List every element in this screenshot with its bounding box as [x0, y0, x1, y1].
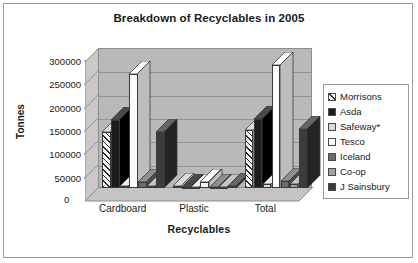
legend-item[interactable]: Co-op — [328, 164, 405, 179]
legend-swatch — [328, 93, 336, 101]
bar-front-face — [263, 184, 272, 188]
bar-front-face — [228, 186, 237, 188]
legend-item-label: Iceland — [340, 151, 371, 162]
bar — [173, 186, 182, 188]
legend-item[interactable]: Iceland — [328, 149, 405, 164]
bar-side-face — [307, 116, 321, 189]
bar — [219, 187, 228, 189]
legend-swatch — [328, 153, 336, 161]
bar — [290, 184, 299, 188]
legend-item[interactable]: Safeway* — [328, 119, 405, 134]
bar-front-face — [147, 186, 156, 188]
y-axis-tick-label: 300000 — [49, 56, 81, 67]
bar — [129, 74, 138, 188]
bar-front-face — [173, 186, 182, 188]
x-axis-tick-label: Plastic — [179, 203, 208, 214]
legend-swatch — [328, 138, 336, 146]
bar-front-face — [245, 130, 254, 188]
bar — [281, 181, 290, 188]
bar — [111, 120, 120, 188]
bar — [228, 186, 237, 188]
legend-swatch — [328, 183, 336, 191]
bar-front-face — [272, 65, 281, 188]
bar-front-face — [254, 119, 263, 188]
bar — [191, 187, 200, 189]
y-axis-tick-label: 200000 — [49, 102, 81, 113]
legend-swatch — [328, 168, 336, 176]
x-axis-tick-label: Cardboard — [99, 203, 146, 214]
bar — [138, 182, 147, 188]
legend-item-label: J Sainsbury — [340, 181, 390, 192]
bar — [102, 132, 111, 188]
chart-legend: MorrisonsAsdaSafeway*TescoIcelandCo-opJ … — [323, 84, 409, 199]
bar-front-face — [210, 187, 219, 189]
bar — [182, 187, 191, 189]
bars-layer — [85, 48, 325, 203]
y-axis-title: Tonnes — [15, 82, 26, 162]
legend-item-label: Co-op — [340, 166, 366, 177]
legend-swatch — [328, 123, 336, 131]
bar-front-face — [182, 187, 191, 189]
bar-front-face — [111, 120, 120, 188]
y-axis-tick-label: 150000 — [49, 126, 81, 137]
bar — [120, 186, 129, 188]
legend-item-label: Safeway* — [340, 121, 380, 132]
bar — [156, 132, 165, 188]
bar-front-face — [129, 74, 138, 188]
bar-front-face — [219, 187, 228, 189]
bar — [200, 182, 209, 188]
bar — [210, 187, 219, 189]
legend-item[interactable]: J Sainsbury — [328, 179, 405, 194]
y-axis-tick-labels: 30000025000020000015000010000050000 — [30, 48, 84, 200]
y-axis-tick-label: 250000 — [49, 79, 81, 90]
x-axis-tick-labels: CardboardPlasticTotal — [85, 203, 325, 219]
bar-front-face — [281, 181, 290, 188]
legend-item-label: Asda — [340, 106, 362, 117]
bar-front-face — [290, 184, 299, 188]
x-axis-tick-label: Total — [255, 203, 276, 214]
legend-item-label: Tesco — [340, 136, 365, 147]
bar-front-face — [102, 132, 111, 188]
x-axis-title: Recyclables — [74, 223, 324, 235]
bar — [263, 184, 272, 188]
bar — [272, 65, 281, 188]
legend-item[interactable]: Asda — [328, 104, 405, 119]
bar — [254, 119, 263, 188]
y-axis-zero-label: 0 — [64, 194, 69, 205]
bar-front-face — [156, 132, 165, 188]
chart-frame: Breakdown of Recyclables in 2005 Tonnes … — [3, 3, 413, 258]
bar-front-face — [299, 129, 308, 188]
bar — [147, 186, 156, 188]
bar-front-face — [200, 182, 209, 188]
legend-item-label: Morrisons — [340, 91, 382, 102]
y-axis-tick-label: 100000 — [49, 149, 81, 160]
bar — [245, 130, 254, 188]
chart-title: Breakdown of Recyclables in 2005 — [4, 12, 414, 24]
legend-item[interactable]: Tesco — [328, 134, 405, 149]
bar-front-face — [120, 186, 129, 188]
bar — [299, 129, 308, 188]
legend-item[interactable]: Morrisons — [328, 89, 405, 104]
bar-front-face — [138, 182, 147, 188]
bar-front-face — [191, 187, 200, 189]
y-axis-tick-label: 50000 — [55, 172, 81, 183]
legend-swatch — [328, 108, 336, 116]
